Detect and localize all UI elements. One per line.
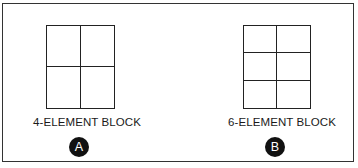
block-b-label: 6-ELEMENT BLOCK (228, 116, 336, 128)
block-a-label: 4-ELEMENT BLOCK (33, 116, 141, 128)
grid-cell (244, 26, 277, 53)
grid-cell (81, 26, 115, 67)
grid-cell (244, 53, 277, 80)
six-element-block-grid (243, 25, 311, 109)
grid-cell (277, 26, 310, 53)
figure-frame: 4-ELEMENT BLOCK A 6-ELEMENT BLOCK B (2, 3, 354, 162)
grid-cell (47, 26, 81, 67)
block-b-badge: B (265, 137, 285, 157)
grid-cell (244, 81, 277, 108)
grid-cell (81, 67, 115, 108)
block-a-badge: A (69, 137, 89, 157)
grid-cell (47, 67, 81, 108)
four-element-block-grid (46, 25, 115, 109)
grid-cell (277, 53, 310, 80)
grid-cell (277, 81, 310, 108)
